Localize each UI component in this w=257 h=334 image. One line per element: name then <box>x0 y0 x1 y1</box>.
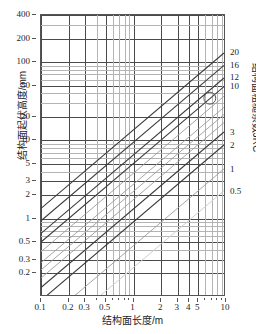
x-tick-mark <box>40 298 41 302</box>
jrc-line-10 <box>41 87 224 242</box>
plot-area <box>40 14 225 296</box>
y-tick-mark <box>32 116 36 117</box>
x-tick-mark <box>160 298 161 302</box>
jrc-nomogram-chart: 40020010050201053210.50.30.2 20161210321… <box>0 0 256 334</box>
x-minor-tick-mark <box>118 298 119 300</box>
x-axis-title: 结构面长度/m <box>40 312 225 327</box>
x-axis-ticks: 0.10.20.30.51234510 <box>40 298 225 312</box>
y-tick-label: 200 <box>17 33 31 42</box>
jrc-line-16 <box>41 65 224 220</box>
y-tick-label: 1 <box>26 213 31 222</box>
x-tick-label: 0.2 <box>62 303 73 312</box>
y-tick-mark <box>32 180 36 181</box>
x-tick-label: 0.3 <box>79 303 90 312</box>
jrc-tick-label-1: 1 <box>230 164 235 173</box>
x-minor-tick-mark <box>96 298 97 300</box>
y-tick-mark <box>32 14 36 15</box>
jrc-line-series <box>41 15 224 295</box>
y-tick-mark <box>32 85 36 86</box>
x-tick-label: 2 <box>158 303 163 312</box>
y-tick-mark <box>32 259 36 260</box>
x-tick-mark <box>177 298 178 302</box>
jrc-line-2 <box>41 145 224 295</box>
x-minor-tick-mark <box>112 298 113 300</box>
x-tick-label: 4 <box>186 303 191 312</box>
jrc-line-8 <box>41 96 224 251</box>
x-tick-mark <box>68 298 69 302</box>
y-tick-label: 0.5 <box>19 237 30 246</box>
x-tick-label: 1 <box>130 303 135 312</box>
x-tick-mark <box>188 298 189 302</box>
x-minor-tick-mark <box>221 298 222 300</box>
x-tick-mark <box>133 298 134 302</box>
x-tick-label: 10 <box>221 303 230 312</box>
x-tick-label: 3 <box>174 303 179 312</box>
jrc-axis-title: 结构面粗糙系数JRC <box>250 43 257 173</box>
y-tick-label: 0.3 <box>19 254 30 263</box>
x-tick-label: 0.5 <box>99 303 110 312</box>
jrc-line-4 <box>41 123 224 278</box>
y-tick-label: 0.2 <box>19 268 30 277</box>
y-axis-title: 结构面起伏高度/mm <box>14 51 29 181</box>
y-tick-label: 2 <box>26 190 31 199</box>
jrc-tick-label-0.5: 0.5 <box>230 186 241 195</box>
x-tick-mark <box>225 298 226 302</box>
y-tick-mark <box>32 61 36 62</box>
x-tick-mark <box>197 298 198 302</box>
jrc-tick-label-3: 3 <box>230 127 235 136</box>
x-minor-tick-mark <box>128 298 129 300</box>
x-tick-label: 5 <box>195 303 200 312</box>
jrc-tick-label-2: 2 <box>230 140 235 149</box>
jrc-tick-label-10: 10 <box>230 82 239 91</box>
x-tick-mark <box>105 298 106 302</box>
y-tick-mark <box>32 241 36 242</box>
y-tick-mark <box>32 163 36 164</box>
jrc-tick-label-20: 20 <box>230 48 239 57</box>
x-minor-tick-mark <box>124 298 125 300</box>
y-tick-mark <box>32 218 36 219</box>
jrc-line-0.5 <box>41 191 224 295</box>
y-tick-label: 400 <box>17 10 31 19</box>
jrc-tick-label-16: 16 <box>230 60 239 69</box>
x-tick-label: 0.1 <box>34 303 45 312</box>
y-tick-mark <box>32 272 36 273</box>
y-tick-mark <box>32 194 36 195</box>
y-tick-mark <box>32 38 36 39</box>
x-minor-tick-mark <box>211 298 212 300</box>
x-minor-tick-mark <box>204 298 205 300</box>
x-tick-mark <box>84 298 85 302</box>
jrc-line-1 <box>41 169 224 295</box>
x-minor-tick-mark <box>216 298 217 300</box>
y-tick-mark <box>32 139 36 140</box>
